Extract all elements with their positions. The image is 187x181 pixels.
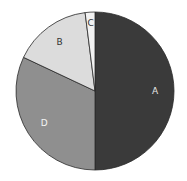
slice-label-a: A [152, 86, 159, 96]
slice-label-c: C [88, 18, 94, 28]
slice-label-b: B [57, 37, 63, 47]
slice-label-d: D [41, 118, 48, 128]
pie-chart: ADBC [0, 0, 187, 181]
pie-slice-a [95, 12, 174, 170]
pie-slices [16, 12, 174, 170]
